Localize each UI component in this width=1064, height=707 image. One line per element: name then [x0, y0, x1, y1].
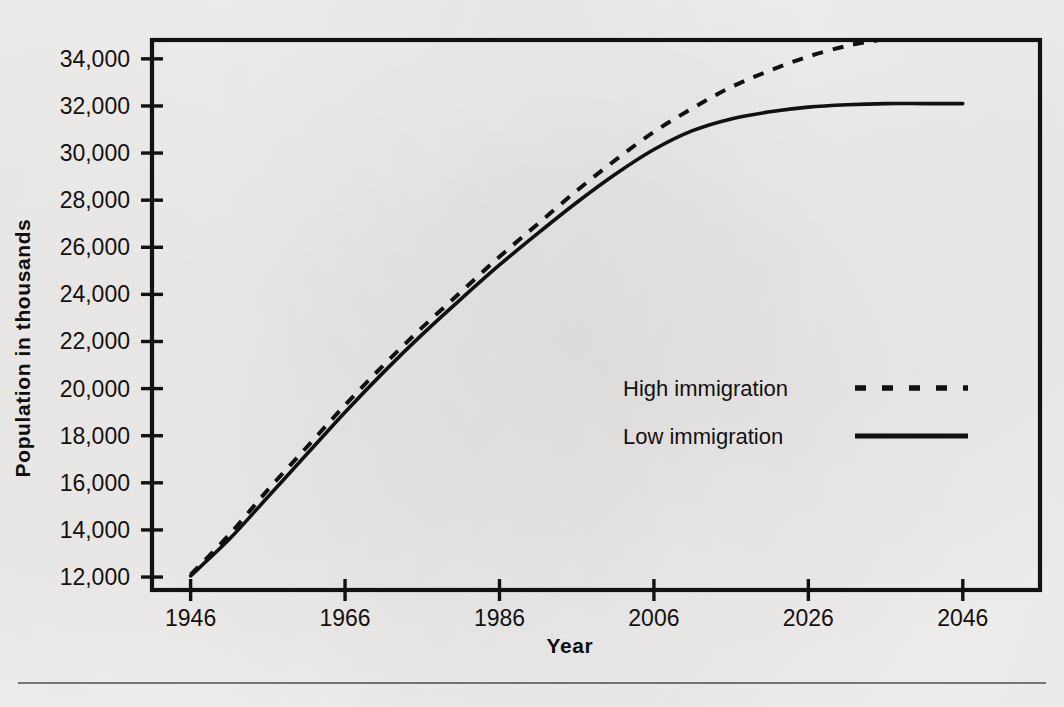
- x-axis: 194619661986200620262046: [165, 579, 988, 631]
- y-axis: 12,00014,00016,00018,00020,00022,00024,0…: [60, 46, 163, 590]
- x-axis-title: Year: [547, 634, 594, 657]
- y-tick-label: 24,000: [60, 281, 130, 307]
- y-axis-title: Population in thousands: [11, 219, 34, 478]
- x-tick-label: 1946: [165, 605, 216, 631]
- y-tick-label: 22,000: [60, 328, 130, 354]
- series-line-high-immigration: [191, 40, 880, 575]
- y-tick-label: 20,000: [60, 376, 130, 402]
- y-tick-label: 26,000: [60, 234, 130, 260]
- y-tick-label: 34,000: [60, 46, 130, 72]
- x-tick-label: 1986: [474, 605, 525, 631]
- legend-label-low-immigration: Low immigration: [623, 424, 783, 449]
- y-tick-label: 32,000: [60, 93, 130, 119]
- x-tick-label: 2026: [783, 605, 834, 631]
- series-line-low-immigration: [191, 104, 963, 576]
- y-tick-label: 28,000: [60, 187, 130, 213]
- population-projection-chart: 12,00014,00016,00018,00020,00022,00024,0…: [0, 0, 1064, 707]
- y-tick-label: 18,000: [60, 423, 130, 449]
- legend: High immigration Low immigration: [623, 376, 968, 449]
- plot-frame: [152, 40, 1040, 590]
- y-tick-label: 30,000: [60, 140, 130, 166]
- chart-canvas: 12,00014,00016,00018,00020,00022,00024,0…: [0, 0, 1064, 707]
- y-tick-label: 12,000: [60, 564, 130, 590]
- x-tick-label: 1966: [319, 605, 370, 631]
- x-tick-label: 2006: [628, 605, 679, 631]
- x-tick-label: 2046: [937, 605, 988, 631]
- y-tick-label: 16,000: [60, 470, 130, 496]
- y-tick-label: 14,000: [60, 517, 130, 543]
- legend-label-high-immigration: High immigration: [623, 376, 788, 401]
